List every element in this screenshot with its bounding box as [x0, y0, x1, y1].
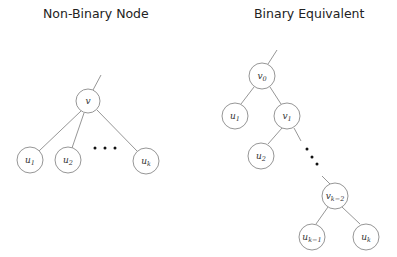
non-binary-tree: v u1 u2 uk [17, 75, 159, 174]
binary-tree: v0 u1 v1 u2 vk−2 uk−1 uk [222, 50, 379, 250]
node-uk-binary: uk [353, 224, 379, 250]
ellipsis-dots [94, 147, 117, 150]
ellipsis-dots-binary [306, 148, 319, 166]
tree-diagram: v u1 u2 uk v0 [0, 0, 397, 257]
node-u1-binary: u1 [222, 103, 248, 129]
node-v1: v1 [274, 103, 300, 129]
node-uk-1: uk−1 [299, 224, 325, 250]
svg-text:v: v [85, 96, 90, 106]
node-u2: u2 [55, 147, 81, 173]
node-v0: v0 [249, 63, 275, 89]
node-vk-2: vk−2 [322, 183, 348, 209]
node-uk: uk [133, 148, 159, 174]
node-u1: u1 [17, 147, 43, 173]
node-v: v [76, 89, 100, 113]
node-u2-binary: u2 [248, 143, 274, 169]
